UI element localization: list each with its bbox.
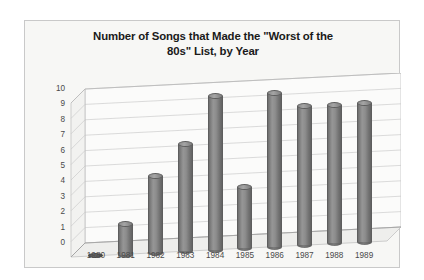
bar-1987[interactable] <box>297 103 312 248</box>
y-tick-1: 1 <box>47 224 65 232</box>
y-tick-2: 2 <box>47 208 65 216</box>
y-tick-4: 4 <box>47 177 65 185</box>
bar-top-cap <box>178 141 193 147</box>
plot-area: 109876543210 198019811982198319841985198… <box>49 73 401 269</box>
bar-top-cap <box>357 100 372 106</box>
bar-1988[interactable] <box>327 102 342 247</box>
bar-body <box>118 224 133 255</box>
bar-top-cap <box>267 90 282 96</box>
x-tick-1989: 1989 <box>347 251 381 260</box>
bar-body <box>237 187 252 249</box>
bar-top-cap <box>237 184 252 190</box>
chart-title-line-2: 80s" List, by Year <box>53 44 373 59</box>
bar-1986[interactable] <box>267 90 282 250</box>
y-tick-9: 9 <box>47 100 65 108</box>
y-tick-7: 7 <box>47 131 65 139</box>
bar-body <box>178 144 193 252</box>
bar-top-cap <box>118 221 133 227</box>
bar-1985[interactable] <box>237 184 252 252</box>
bar-body <box>357 103 372 242</box>
chart-frame: Number of Songs that Made the "Worst of … <box>24 20 400 268</box>
bar-body <box>208 96 223 250</box>
bar-body <box>297 106 312 245</box>
y-tick-5: 5 <box>47 162 65 170</box>
bar-body <box>267 93 282 247</box>
chart-title-line-1: Number of Songs that Made the "Worst of … <box>53 29 373 44</box>
y-tick-8: 8 <box>47 116 65 124</box>
bar-1983[interactable] <box>178 141 193 255</box>
y-tick-3: 3 <box>47 193 65 201</box>
bar-top-cap <box>148 173 163 179</box>
y-tick-10: 10 <box>47 85 65 93</box>
plot-3d-scene <box>49 73 401 269</box>
bar-1989[interactable] <box>357 100 372 245</box>
y-tick-0: 0 <box>47 239 65 247</box>
bar-body <box>327 105 342 244</box>
bar-body <box>148 176 163 253</box>
bar-1984[interactable] <box>208 93 223 253</box>
y-tick-6: 6 <box>47 147 65 155</box>
bar-1982[interactable] <box>148 173 163 256</box>
chart-title: Number of Songs that Made the "Worst of … <box>53 29 373 59</box>
bar-top-cap <box>327 102 342 108</box>
bar-top-cap <box>208 93 223 99</box>
